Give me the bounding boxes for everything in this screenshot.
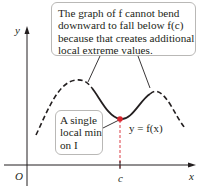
curve-label: y = f(x) xyxy=(129,122,163,134)
x-axis xyxy=(4,163,196,168)
min-callout-line-3: on I xyxy=(60,139,102,151)
min-callout-line-2: local min xyxy=(60,126,102,138)
c-label: c xyxy=(118,172,123,184)
top-callout-line-1: The graph of f cannot bend xyxy=(58,7,195,19)
leader-line-right xyxy=(138,56,150,88)
origin-label: O xyxy=(15,170,23,182)
y-axis xyxy=(25,26,30,186)
min-callout-line-1: A single xyxy=(60,114,102,126)
min-callout: A single local min on I xyxy=(55,110,103,155)
y-axis-label: y xyxy=(15,24,20,36)
diagram: y x O c y = f(x) The graph of f cannot b… xyxy=(0,0,200,195)
top-callout: The graph of f cannot bend downward to f… xyxy=(51,2,196,56)
leader-line-left xyxy=(88,56,100,82)
top-callout-line-3: because that creates additional xyxy=(58,32,195,44)
local-min-point xyxy=(117,116,123,122)
top-callout-line-2: downward to fall below f(c) xyxy=(58,19,195,31)
x-axis-label: x xyxy=(189,170,194,182)
top-callout-line-4: local extreme values. xyxy=(58,44,195,56)
leader-line-min xyxy=(103,120,119,128)
